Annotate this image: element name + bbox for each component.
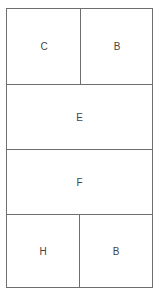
cell-label: B [114,41,121,52]
cell-row1-right: B [81,9,153,84]
divider-vertical-row4 [79,215,80,287]
cell-row4-left: H [7,215,79,287]
cell-label: B [113,246,120,257]
cell-label: E [76,112,83,123]
cell-row3: F [7,150,152,214]
cell-row4-right: B [80,215,152,287]
grid-frame: C B E F H B [6,8,153,288]
cell-label: C [40,41,47,52]
divider-vertical-row1 [80,9,81,84]
cell-label: H [39,246,46,257]
cell-row2: E [7,85,152,149]
cell-label: F [76,177,82,188]
cell-row1-left: C [7,9,81,84]
